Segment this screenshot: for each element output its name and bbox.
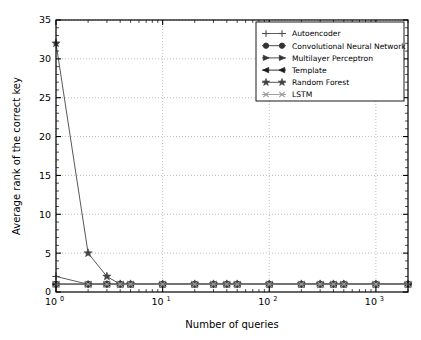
svg-text:10: 10 [258, 296, 270, 307]
y-tick-label: 10 [39, 209, 51, 220]
chart-figure: 05101520253035 100101102103 Number of qu… [0, 0, 421, 340]
legend-item-label: LSTM [292, 90, 312, 99]
y-tick-label: 35 [39, 14, 51, 25]
legend-item-label: Multilayer Perceptron [292, 54, 373, 63]
y-tick-label: 20 [39, 131, 51, 142]
chart-legend[interactable]: AutoencoderConvolutional Neural NetworkM… [256, 22, 406, 101]
legend-item-label: Template [291, 66, 327, 75]
svg-text:0: 0 [60, 295, 64, 303]
svg-text:3: 3 [380, 295, 384, 303]
y-axis-title: Average rank of the correct key [11, 77, 22, 235]
svg-text:2: 2 [273, 295, 277, 303]
legend-item-label: Autoencoder [292, 29, 341, 38]
chart-svg: 05101520253035 100101102103 Number of qu… [0, 0, 421, 340]
svg-text:10: 10 [152, 296, 164, 307]
svg-text:1: 1 [167, 295, 171, 303]
y-tick-label: 5 [45, 248, 51, 259]
y-tick-label: 25 [39, 92, 51, 103]
x-axis-title: Number of queries [185, 319, 278, 330]
svg-text:10: 10 [45, 296, 57, 307]
legend-item-label: Random Forest [292, 78, 349, 87]
legend-item-label: Convolutional Neural Network [292, 42, 406, 51]
y-tick-label: 30 [39, 53, 51, 64]
y-tick-label: 15 [39, 170, 51, 181]
svg-text:10: 10 [365, 296, 377, 307]
